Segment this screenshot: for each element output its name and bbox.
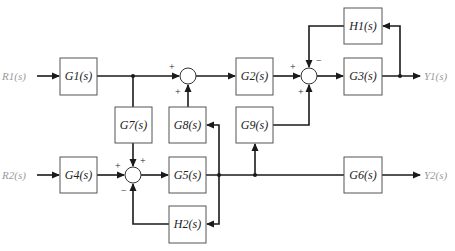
summing-junction-3: [125, 167, 141, 183]
block-label: G9(s): [241, 118, 268, 132]
block-g5: G5(s): [169, 157, 206, 193]
sign-sum1-left: +: [169, 61, 175, 72]
block-h1: H1(s): [344, 8, 382, 44]
block-label: G3(s): [349, 69, 376, 83]
block-label: G5(s): [174, 168, 201, 182]
junction-dot: [253, 173, 257, 177]
block-g3: G3(s): [344, 58, 382, 95]
junction-dot: [398, 74, 402, 78]
block-label: G4(s): [65, 168, 92, 182]
wires: [37, 26, 420, 224]
wire-h1-sum2: [309, 26, 344, 67]
block-g6: G6(s): [344, 157, 382, 193]
block-g8: G8(s): [169, 107, 206, 143]
sign-sum3-bottom: −: [121, 185, 127, 196]
wire-branch-h1: [383, 26, 400, 76]
block-label: G6(s): [349, 168, 376, 182]
junction-dot: [131, 74, 135, 78]
output-y1-label: Y1(s): [424, 70, 448, 83]
block-label: H2(s): [173, 217, 201, 231]
block-label: H1(s): [348, 19, 376, 33]
sign-sum3-left: +: [115, 160, 121, 171]
block-label: G7(s): [120, 118, 147, 132]
block-label: G1(s): [65, 69, 92, 83]
block-g1: G1(s): [60, 58, 97, 95]
input-r1-label: R1(s): [1, 70, 26, 83]
summing-junction-1: [180, 68, 196, 84]
block-g9: G9(s): [236, 107, 273, 143]
sign-sum3-top: +: [140, 155, 146, 166]
wire-branch-h2: [207, 175, 219, 224]
sign-sum2-left: +: [290, 61, 296, 72]
summing-junction-2: [301, 68, 317, 84]
block-label: G2(s): [241, 69, 268, 83]
block-g4: G4(s): [60, 157, 97, 193]
block-h2: H2(s): [169, 206, 206, 243]
sign-sum2-top: −: [316, 55, 322, 66]
block-g2: G2(s): [236, 58, 273, 95]
block-diagram: + + + − + + + − G1(s) G2(s) G3(s) H1(s) …: [0, 0, 455, 251]
block-g7: G7(s): [115, 107, 152, 143]
wire-h2-sum3: [133, 184, 169, 224]
sign-sum2-bottom: +: [298, 86, 304, 97]
sign-sum1-bottom: +: [175, 86, 181, 97]
junction-dot: [217, 173, 221, 177]
output-y2-label: Y2(s): [424, 169, 448, 182]
input-r2-label: R2(s): [1, 169, 26, 182]
block-label: G8(s): [174, 118, 201, 132]
wire-branch-g8: [207, 125, 219, 175]
